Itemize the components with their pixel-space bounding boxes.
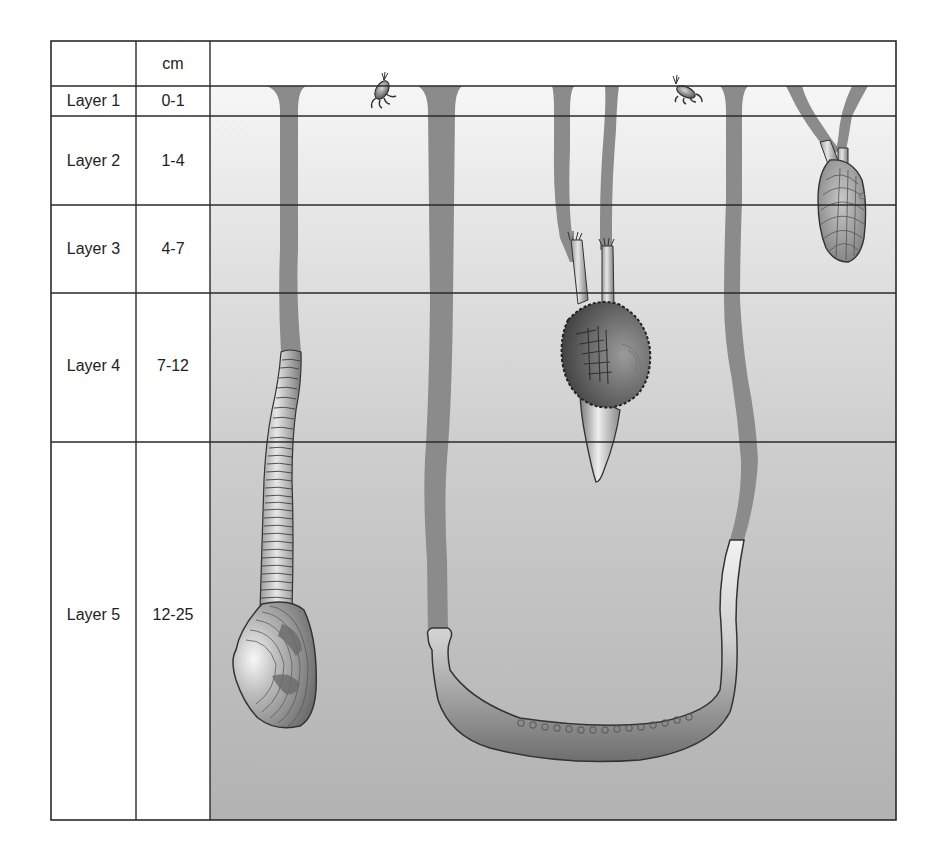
layer-label-1: Layer 1 bbox=[51, 92, 136, 110]
depth-value-4: 7-12 bbox=[136, 357, 210, 375]
layer-label-2: Layer 2 bbox=[51, 152, 136, 170]
depth-column-header: cm bbox=[136, 55, 210, 73]
depth-value-5: 12-25 bbox=[136, 606, 210, 624]
layer-label-5: Layer 5 bbox=[51, 606, 136, 624]
diagram-canvas bbox=[0, 0, 941, 844]
layer-label-4: Layer 4 bbox=[51, 357, 136, 375]
layer-label-3: Layer 3 bbox=[51, 240, 136, 258]
depth-value-3: 4-7 bbox=[136, 240, 210, 258]
depth-value-1: 0-1 bbox=[136, 92, 210, 110]
depth-value-2: 1-4 bbox=[136, 152, 210, 170]
sediment-layer-diagram: cm Layer 1 0-1 Layer 2 1-4 Layer 3 4-7 L… bbox=[0, 0, 941, 844]
